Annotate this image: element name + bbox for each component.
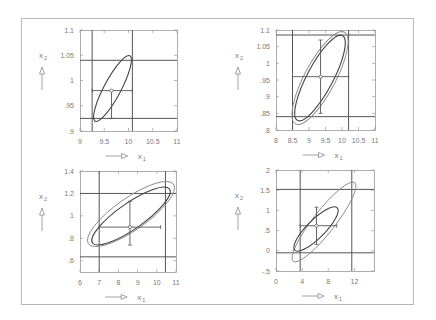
x-tick-label: 10 <box>153 279 161 286</box>
y-tick-label: .8 <box>264 127 270 134</box>
y-tick-label: 1.05 <box>256 43 270 50</box>
y-axis-arrowhead-icon <box>236 207 241 214</box>
x-tick-label: 11 <box>172 279 179 286</box>
y-tick-label: .6 <box>68 257 74 264</box>
y-tick-label: 1.4 <box>64 168 74 175</box>
x-tick-label: 9.5 <box>321 137 331 144</box>
y-axis-label-subscript: 2 <box>240 195 243 201</box>
y-tick-label: 1.1 <box>64 27 74 34</box>
y-tick-label: .95 <box>64 102 74 109</box>
x-tick-label: 8 <box>326 278 330 285</box>
x-tick-label: 10.5 <box>146 138 160 145</box>
x-axis-arrowhead-icon <box>319 153 325 158</box>
x-tick-label: 9 <box>307 137 311 144</box>
x-tick-label: 8.5 <box>288 137 298 144</box>
y-axis-label: x <box>39 51 43 60</box>
y-tick-label: 1.05 <box>60 52 74 59</box>
y-tick-label: -.5 <box>262 268 270 275</box>
x-tick-label: 6 <box>78 279 82 286</box>
y-axis-label-subscript: 2 <box>44 196 47 202</box>
center-point <box>110 89 113 92</box>
x-axis-label-subscript: 1 <box>339 296 342 302</box>
x-axis-label: x <box>335 151 339 160</box>
y-axis-label: x <box>39 192 43 201</box>
y-tick-label: .5 <box>264 227 270 234</box>
x-tick-label: 11 <box>371 137 378 144</box>
chart-panel-1: 99.51010.5111.11.051.95.9x1x2 <box>39 27 181 163</box>
chart-panel-3: 678910111.41.21.8.6x1x2 <box>39 168 183 304</box>
x-axis-label-subscript: 1 <box>340 155 343 161</box>
plot-frame <box>81 31 178 132</box>
confidence-ellipse <box>88 52 138 125</box>
y-axis-arrowhead-icon <box>40 67 45 74</box>
y-tick-label: .9 <box>264 93 270 100</box>
y-tick-label: .85 <box>260 110 270 117</box>
y-tick-label: 1.2 <box>64 190 74 197</box>
y-axis-label-subscript: 2 <box>240 55 243 61</box>
x-axis-label-subscript: 1 <box>143 156 146 162</box>
x-tick-label: 8 <box>274 137 278 144</box>
x-tick-label: 9 <box>78 138 82 145</box>
plot-frame <box>277 171 375 272</box>
center-point <box>315 224 318 227</box>
x-tick-label: 10 <box>338 137 346 144</box>
chart-panel-4: 0481221.51.50-.5x1x2 <box>235 167 375 303</box>
x-axis-label: x <box>334 292 338 301</box>
x-axis-label: x <box>138 152 142 161</box>
y-axis-label: x <box>235 51 239 60</box>
x-tick-label: 9 <box>136 279 140 286</box>
x-tick-label: 4 <box>300 278 304 285</box>
center-point <box>128 226 131 229</box>
y-tick-label: 2 <box>266 167 270 174</box>
x-axis-label: x <box>137 293 141 302</box>
y-tick-label: 1.5 <box>260 187 270 194</box>
x-tick-label: 0 <box>274 278 278 285</box>
x-tick-label: 10 <box>125 138 133 145</box>
y-axis-label-subscript: 2 <box>44 55 47 61</box>
y-tick-label: 1 <box>70 212 74 219</box>
x-tick-label: 8 <box>116 279 120 286</box>
y-axis-arrowhead-icon <box>236 67 241 74</box>
x-axis-label-subscript: 1 <box>142 297 145 303</box>
x-tick-label: 11 <box>173 138 180 145</box>
x-tick-label: 10.5 <box>352 137 366 144</box>
y-tick-label: 1 <box>266 207 270 214</box>
x-tick-label: 12 <box>351 278 359 285</box>
x-axis-arrowhead-icon <box>122 154 128 159</box>
figure: 99.51010.5111.11.051.95.9x1x288.599.5101… <box>0 0 436 320</box>
x-axis-arrowhead-icon <box>318 294 324 299</box>
y-tick-label: .9 <box>68 128 74 135</box>
y-axis-arrowhead-icon <box>40 208 45 215</box>
y-tick-label: 1 <box>266 60 270 67</box>
y-tick-label: 1.1 <box>260 27 270 34</box>
y-axis-label: x <box>235 191 239 200</box>
x-tick-label: 9.5 <box>99 138 109 145</box>
x-tick-label: 7 <box>97 279 101 286</box>
y-tick-label: 0 <box>266 247 270 254</box>
x-axis-arrowhead-icon <box>121 295 127 300</box>
y-tick-label: .95 <box>260 77 270 84</box>
chart-panel-2: 88.599.51010.5111.11.051.95.9.85.8x1x2 <box>235 25 379 161</box>
center-point <box>319 75 322 78</box>
y-tick-label: 1 <box>70 77 74 84</box>
y-tick-label: .8 <box>68 235 74 242</box>
